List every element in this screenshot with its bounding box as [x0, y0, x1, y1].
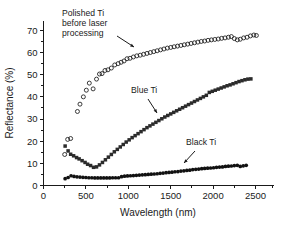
data-point: [254, 33, 258, 37]
blue-ti-label: Blue Ti: [131, 85, 157, 113]
y-tick-label: 30: [27, 113, 38, 124]
data-point: [87, 81, 91, 85]
black-ti-label: Black Ti: [184, 137, 216, 163]
x-tick-label: 0: [41, 190, 46, 201]
data-point: [95, 77, 99, 81]
data-point: [244, 163, 248, 167]
data-point: [81, 95, 85, 99]
chart-plot-area: 010203040506070 05001000150020002500 Pol…: [0, 0, 285, 228]
x-axis-title: Wavelength (nm): [120, 207, 196, 218]
y-tick-label: 70: [27, 25, 38, 36]
data-point: [63, 144, 67, 148]
polished-ti-label: Polished Tibefore laserprocessing: [62, 8, 134, 47]
y-tick-label: 40: [27, 91, 38, 102]
series-polished-ti-before-laser-processing: [63, 33, 259, 156]
x-tick-label: 500: [78, 190, 94, 201]
polished-ti-label-text: Polished Tibefore laserprocessing: [62, 8, 108, 38]
y-tick-label: 20: [27, 136, 38, 147]
series-blue-ti: [63, 77, 252, 169]
y-axis-ticks: 010203040506070: [27, 25, 44, 191]
data-point: [91, 87, 95, 91]
x-tick-label: 2000: [203, 190, 224, 201]
blue-ti-label-text: Blue Ti: [131, 85, 157, 95]
data-point: [249, 77, 253, 81]
black-ti-label-text: Black Ti: [186, 137, 216, 147]
reflectance-chart-figure: 010203040506070 05001000150020002500 Pol…: [0, 0, 285, 228]
y-tick-label: 10: [27, 158, 38, 169]
x-axis-ticks: 05001000150020002500: [41, 186, 273, 202]
x-tick-label: 1000: [118, 190, 139, 201]
series-annotations: Polished Tibefore laserprocessingBlue Ti…: [62, 8, 216, 163]
x-tick-label: 2500: [245, 190, 266, 201]
data-point: [109, 66, 113, 70]
data-point: [84, 88, 88, 92]
data-series-group: [63, 33, 259, 180]
data-point: [63, 152, 67, 156]
y-axis-title: Reflectance (%): [4, 67, 15, 138]
x-tick-label: 1500: [160, 190, 181, 201]
y-tick-label: 0: [32, 180, 37, 191]
y-tick-label: 50: [27, 69, 38, 80]
y-tick-label: 60: [27, 47, 38, 58]
data-point: [78, 102, 82, 106]
data-point: [75, 109, 79, 113]
data-point: [66, 149, 70, 153]
